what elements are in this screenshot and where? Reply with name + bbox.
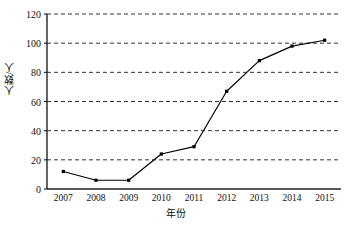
line-chart: 人数/人 020406080100120 2007200820092010201… [0, 0, 351, 229]
data-point-marker [62, 170, 65, 173]
x-tick-label: 2015 [315, 193, 334, 203]
x-tick-label: 2014 [283, 193, 302, 203]
data-point-marker [290, 44, 293, 47]
x-axis-title: 年份 [0, 205, 351, 220]
x-tick-label: 2010 [152, 193, 171, 203]
data-point-marker [160, 152, 163, 155]
data-line [63, 40, 324, 180]
data-point-marker [94, 179, 97, 182]
x-tick-label: 2009 [119, 193, 138, 203]
x-tick-label: 2013 [250, 193, 269, 203]
data-point-marker [192, 145, 195, 148]
x-tick-label: 2007 [54, 193, 73, 203]
x-tick-label: 2008 [87, 193, 106, 203]
data-point-marker [258, 59, 261, 62]
data-point-marker [323, 39, 326, 42]
x-tick-label: 2011 [185, 193, 204, 203]
x-tick-label: 2012 [217, 193, 236, 203]
data-point-marker [225, 90, 228, 93]
data-point-marker [127, 179, 130, 182]
